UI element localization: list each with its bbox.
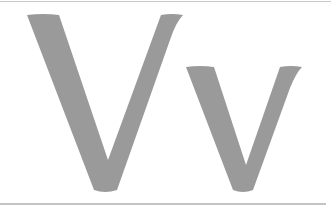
- lowercase-v-glyph: [186, 66, 302, 192]
- bottom-rule: [0, 203, 326, 205]
- glyph-artwork: [0, 0, 331, 211]
- uppercase-v-glyph: [27, 14, 183, 192]
- glyph-specimen: V v: [0, 0, 331, 211]
